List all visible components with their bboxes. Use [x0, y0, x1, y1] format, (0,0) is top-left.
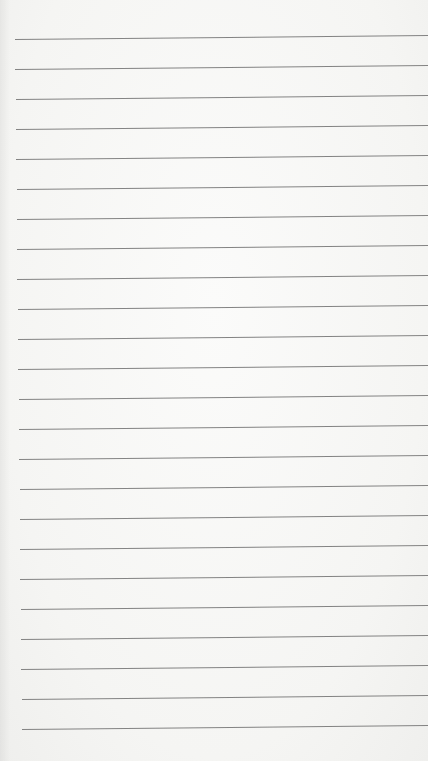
ruled-line [19, 455, 428, 460]
ruled-line [16, 155, 428, 160]
ruled-line [19, 395, 428, 400]
ruled-line [21, 665, 428, 670]
ruled-line [21, 635, 428, 640]
ruled-line [17, 185, 428, 190]
ruled-line [22, 725, 428, 730]
ruled-line [15, 35, 428, 40]
lined-paper-sheet [0, 0, 428, 761]
ruled-line [20, 515, 428, 520]
ruled-line [17, 215, 428, 220]
paper-edge-shadow [0, 0, 10, 761]
ruled-line [16, 125, 428, 130]
ruled-line [16, 95, 428, 100]
ruled-line [18, 335, 428, 340]
ruled-line [19, 425, 428, 430]
ruled-line [20, 575, 428, 580]
ruled-line [17, 275, 428, 280]
ruled-line [20, 545, 428, 550]
ruled-line [18, 305, 428, 310]
ruled-line [15, 65, 428, 70]
ruled-line [20, 485, 428, 490]
ruled-line [21, 605, 428, 610]
ruled-line [22, 695, 428, 700]
ruled-line [18, 365, 428, 370]
ruled-line [17, 245, 428, 250]
